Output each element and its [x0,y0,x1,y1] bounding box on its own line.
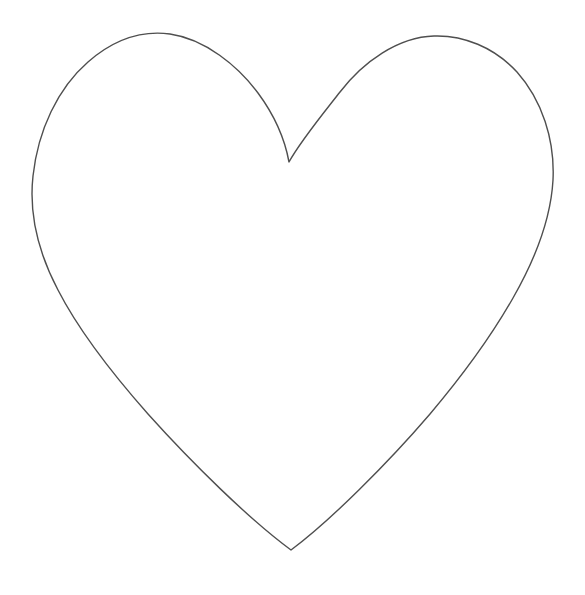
page-background [0,0,585,595]
drawing-canvas [0,0,585,595]
heart-drawing-svg [0,0,585,595]
